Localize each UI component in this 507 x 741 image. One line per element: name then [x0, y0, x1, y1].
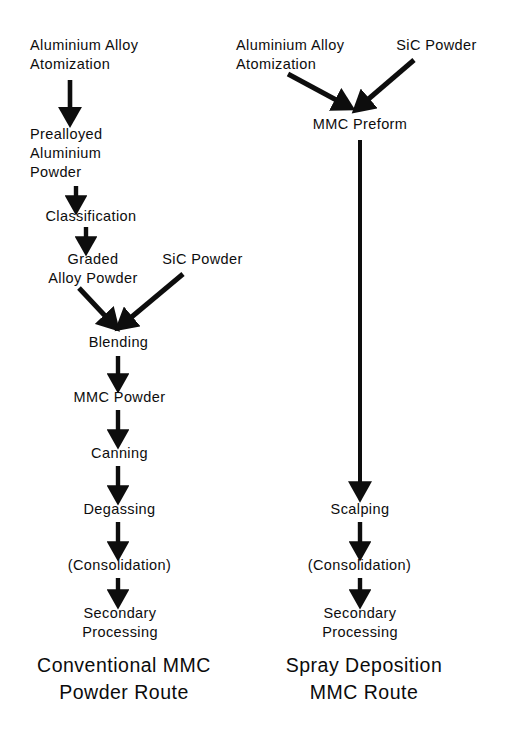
node-consolidation-right: (Consolidation) [294, 556, 425, 575]
node-secondary-processing-left: Secondary Processing [68, 604, 172, 642]
node-classification: Classification [26, 207, 156, 226]
arrow-graded-to-blending [79, 288, 108, 319]
caption-conventional-mmc-powder-route: Conventional MMC Powder Route [8, 652, 240, 706]
node-consolidation-left: (Consolidation) [54, 556, 185, 575]
node-secondary-processing-right: Secondary Processing [308, 604, 412, 642]
flowchart-canvas: Aluminium Alloy Atomization Prealloyed A… [0, 0, 507, 741]
node-sic-powder-left: SiC Powder [150, 250, 255, 269]
node-aluminium-alloy-atomization-right: Aluminium Alloy Atomization [236, 36, 391, 74]
node-graded-alloy-powder: Graded Alloy Powder [32, 250, 154, 288]
node-prealloyed-aluminium-powder: Prealloyed Aluminium Powder [30, 125, 155, 182]
node-sic-powder-right: SiC Powder [383, 36, 490, 55]
node-blending: Blending [77, 333, 160, 352]
caption-spray-deposition-mmc-route: Spray Deposition MMC Route [248, 652, 480, 706]
node-canning: Canning [80, 444, 159, 463]
node-degassing: Degassing [72, 500, 167, 519]
arrow-atomization-to-preform [288, 74, 340, 102]
node-scalping: Scalping [322, 500, 398, 519]
node-aluminium-alloy-atomization-left: Aluminium Alloy Atomization [30, 36, 185, 74]
node-mmc-powder: MMC Powder [63, 388, 176, 407]
node-mmc-preform: MMC Preform [300, 115, 420, 134]
